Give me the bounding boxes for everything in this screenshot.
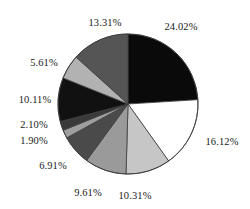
slice-label-2: 16.12%	[206, 137, 239, 148]
slice-label-1: 24.02%	[165, 22, 198, 33]
pie-chart: 24.02% 16.12% 10.31% 9.61% 6.91% 1.90% 2…	[0, 0, 250, 209]
slice-label-9: 5.61%	[30, 58, 58, 69]
slice-label-8: 10.11%	[19, 95, 52, 106]
slice-label-6: 1.90%	[20, 136, 48, 147]
pie-slice	[128, 34, 198, 104]
slice-label-7: 2.10%	[20, 120, 48, 131]
slice-label-3: 10.31%	[119, 191, 152, 202]
pie-slices-group	[58, 34, 198, 174]
slice-label-10: 13.31%	[89, 18, 122, 29]
slice-label-5: 6.91%	[39, 161, 67, 172]
slice-label-4: 9.61%	[74, 188, 102, 199]
